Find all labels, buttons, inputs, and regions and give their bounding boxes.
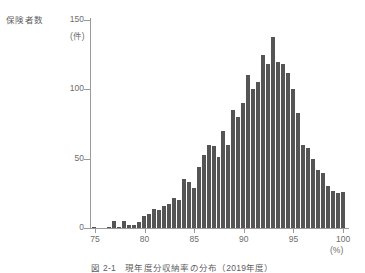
y-tick-label: 50 [46, 154, 84, 163]
x-tick-label: 95 [278, 235, 308, 244]
x-tick-mark [95, 228, 96, 233]
y-axis-unit-label: (件) [70, 29, 85, 41]
y-axis-label: 保険者数 [6, 13, 44, 25]
histogram-bar [92, 227, 97, 228]
x-tick-mark [194, 228, 195, 233]
x-tick-mark [293, 228, 294, 233]
x-tick-mark [145, 228, 146, 233]
histogram-bar [341, 192, 346, 228]
x-tick-label: 80 [130, 235, 160, 244]
x-tick-label: 85 [179, 235, 209, 244]
y-tick-label: 150 [46, 15, 84, 24]
x-tick-label: 75 [80, 235, 110, 244]
x-tick-label: 100 [328, 235, 358, 244]
histogram-bars [90, 20, 348, 228]
x-tick-mark [343, 228, 344, 233]
y-tick-label: 100 [46, 84, 84, 93]
x-axis-unit-label: (%) [330, 245, 343, 255]
x-axis-line [90, 228, 349, 229]
x-tick-label: 90 [229, 235, 259, 244]
y-tick-label: 0 [46, 223, 84, 232]
y-tick-mark [84, 228, 90, 229]
figure-caption: 図 2-1 現年度分収納率の分布（2019年度） [0, 261, 365, 273]
x-tick-mark [244, 228, 245, 233]
